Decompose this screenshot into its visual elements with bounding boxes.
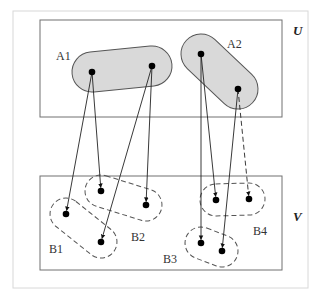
universe-v-label: V — [293, 209, 303, 224]
point-b2 — [143, 202, 150, 209]
point-a1 — [149, 63, 156, 70]
set-b4 — [200, 183, 266, 217]
universe-u-label: U — [293, 23, 303, 38]
set-b3 — [180, 222, 242, 271]
mapping-arrow — [222, 89, 238, 248]
point-b1 — [98, 239, 105, 246]
universe-v-box — [40, 176, 282, 270]
point-b1 — [63, 211, 70, 218]
point-a2 — [235, 86, 242, 93]
point-b2 — [98, 188, 105, 195]
b-sets — [44, 171, 266, 272]
point-b3 — [198, 240, 205, 247]
set-mapping-diagram: UVA1A2B1B2B3B4 — [0, 0, 320, 301]
set-a1-label: A1 — [56, 49, 71, 63]
set-a2-label: A2 — [227, 37, 242, 51]
set-a1 — [70, 44, 174, 94]
point-b4 — [213, 197, 220, 204]
point-a1 — [89, 69, 96, 76]
set-b1-label: B1 — [49, 242, 63, 256]
set-b2 — [81, 171, 166, 225]
set-b2-label: B2 — [131, 230, 145, 244]
mapping-arrow — [102, 66, 152, 239]
point-a2 — [198, 51, 205, 58]
set-b3-label: B3 — [163, 252, 177, 266]
mapping-arrow — [67, 72, 92, 211]
set-b4-label: B4 — [253, 224, 267, 238]
point-b4 — [246, 196, 253, 203]
set-a2 — [173, 26, 267, 118]
point-b3 — [219, 248, 226, 255]
